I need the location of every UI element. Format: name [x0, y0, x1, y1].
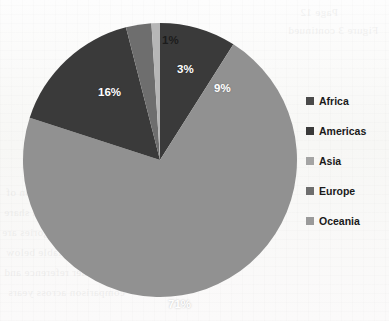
legend-item-africa[interactable]: Africa: [306, 86, 388, 116]
legend-swatch-icon: [306, 97, 314, 105]
chart-legend: AfricaAmericasAsiaEuropeOceania: [306, 86, 388, 236]
pie-data-label-asia: 71%: [168, 298, 191, 310]
pie-data-label-oceania: 1%: [162, 34, 179, 46]
legend-swatch-icon: [306, 157, 314, 165]
legend-item-label: Oceania: [319, 216, 360, 227]
chart-page: Page 12Figure 3 continuedregional distri…: [0, 0, 389, 321]
legend-item-label: Asia: [319, 156, 341, 167]
legend-swatch-icon: [306, 217, 314, 225]
legend-item-label: Americas: [319, 126, 366, 137]
pie-chart-svg: [22, 22, 298, 298]
legend-item-europe[interactable]: Europe: [306, 176, 388, 206]
legend-swatch-icon: [306, 127, 314, 135]
legend-item-oceania[interactable]: Oceania: [306, 206, 388, 236]
pie-data-label-europe: 3%: [177, 63, 194, 75]
showthrough-line: Figure 3 continued: [288, 24, 378, 36]
pie-data-label-americas: 16%: [98, 86, 121, 98]
legend-item-label: Africa: [319, 96, 349, 107]
showthrough-line: Page 12: [300, 6, 338, 18]
pie-chart: 9%71%16%3%1%: [22, 22, 298, 298]
pie-data-label-africa: 9%: [214, 82, 231, 94]
legend-item-label: Europe: [319, 186, 355, 197]
pie-slice-group: [23, 23, 297, 297]
legend-item-americas[interactable]: Americas: [306, 116, 388, 146]
legend-item-asia[interactable]: Asia: [306, 146, 388, 176]
legend-swatch-icon: [306, 187, 314, 195]
